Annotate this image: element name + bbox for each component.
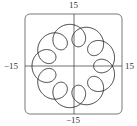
y-max-tick-label: 15 <box>69 1 78 10</box>
x-max-tick-label: 15 <box>125 62 134 71</box>
x-min-tick-label: −15 <box>4 62 18 71</box>
plot-frame <box>25 14 122 114</box>
y-min-tick-label: −15 <box>66 116 80 125</box>
parametric-plot <box>0 0 137 126</box>
